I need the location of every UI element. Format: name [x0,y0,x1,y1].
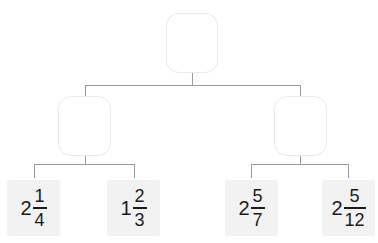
denominator-2: 3 [134,211,146,229]
fraction-3: 5 7 [251,187,265,229]
mixed-number-3: 2 5 7 [238,187,264,229]
connector-leaf-1-drop [34,164,35,178]
tree-node-left-child[interactable] [58,96,111,156]
denominator-4: 12 [344,211,366,229]
fraction-4: 5 12 [344,187,366,229]
connector-leaf-4-drop [348,164,349,178]
connector-right-child-stem [300,156,301,164]
whole-part-1: 2 [20,198,31,218]
tree-diagram: 2 1 4 1 2 3 2 5 7 [0,0,378,243]
numerator-1: 1 [34,187,46,205]
connector-leaf-3-drop [251,164,252,178]
whole-part-4: 2 [331,198,342,218]
connector-left-child-stem [85,156,86,164]
fraction-bar-1 [33,207,47,209]
whole-part-2: 1 [120,198,131,218]
mixed-number-1: 2 1 4 [20,187,46,229]
numerator-3: 5 [252,187,264,205]
connector-level1-bar [85,85,301,86]
connector-right-leaf-bar [251,164,349,165]
fraction-1: 1 4 [33,187,47,229]
fraction-bar-3 [251,207,265,209]
mixed-number-4: 2 5 12 [331,187,365,229]
numerator-4: 5 [349,187,361,205]
tree-leaf-3[interactable]: 2 5 7 [225,180,278,236]
whole-part-3: 2 [238,198,249,218]
tree-node-root[interactable] [166,13,218,73]
tree-leaf-1[interactable]: 2 1 4 [7,180,60,236]
connector-root-stem [192,73,193,85]
denominator-3: 7 [252,211,264,229]
fraction-2: 2 3 [133,187,147,229]
numerator-2: 2 [134,187,146,205]
tree-node-right-child[interactable] [274,96,327,156]
connector-leaf-2-drop [134,164,135,178]
tree-leaf-4[interactable]: 2 5 12 [322,180,375,236]
connector-left-child-drop [85,85,86,96]
fraction-bar-4 [344,207,366,209]
fraction-bar-2 [133,207,147,209]
tree-leaf-2[interactable]: 1 2 3 [107,180,160,236]
connector-left-leaf-bar [34,164,135,165]
mixed-number-2: 1 2 3 [120,187,146,229]
connector-right-child-drop [300,85,301,96]
denominator-1: 4 [34,211,46,229]
